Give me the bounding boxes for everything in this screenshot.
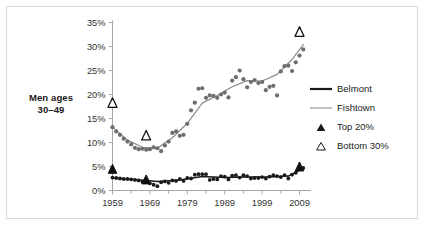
data-point [268, 85, 272, 89]
data-point [226, 95, 230, 99]
data-point [152, 145, 156, 149]
data-point [178, 177, 182, 181]
data-point [122, 137, 126, 141]
data-point [260, 80, 264, 84]
data-point [219, 174, 223, 178]
data-point [234, 173, 238, 177]
data-point [282, 64, 286, 68]
series-belmont [111, 166, 306, 188]
data-point [241, 77, 245, 81]
data-point [275, 93, 279, 97]
data-point [294, 60, 298, 64]
y-tick-label: 10% [87, 138, 106, 148]
data-point [253, 176, 257, 180]
legend-item-fishtown: Fishtown [308, 98, 420, 117]
x-tick-label: 2009 [289, 198, 310, 208]
x-tick-label: 1959 [102, 198, 123, 208]
data-point [174, 129, 178, 133]
data-point [211, 94, 215, 98]
trend-line [113, 45, 304, 149]
y-tick-label: 15% [87, 114, 106, 124]
data-point [230, 78, 234, 82]
x-tick-label: 1999 [252, 198, 273, 208]
open-triangle-icon [308, 140, 334, 152]
data-point [253, 78, 257, 82]
annotation-open-triangle [108, 98, 117, 108]
data-point [133, 178, 137, 182]
data-point [148, 147, 152, 151]
data-point [290, 69, 294, 73]
data-point [230, 174, 234, 178]
filled-triangle-icon [308, 121, 334, 133]
data-point [301, 47, 305, 51]
thin-gray-line-icon [308, 103, 334, 113]
data-point [238, 68, 242, 72]
data-point [234, 75, 238, 79]
data-point [137, 147, 141, 151]
data-point [126, 177, 130, 181]
legend-item-bottom-30: Bottom 30% [308, 136, 420, 155]
legend-label-belmont: Belmont [334, 83, 372, 94]
data-point [178, 134, 182, 138]
data-point [268, 175, 272, 179]
data-point [249, 80, 253, 84]
data-point [279, 69, 283, 73]
data-point [182, 179, 186, 183]
data-point [208, 93, 212, 97]
data-point [227, 178, 231, 182]
data-point [129, 142, 133, 146]
data-point [189, 108, 193, 112]
data-point [200, 172, 204, 176]
chart-legend: Belmont Fishtown Top 20% Bottom 30% [308, 79, 420, 155]
data-point [271, 84, 275, 88]
data-point [279, 175, 283, 179]
data-point [167, 181, 171, 185]
axis-side-label: Men ages 30–49 [14, 92, 88, 116]
data-point [256, 81, 260, 85]
data-point [242, 173, 246, 177]
data-point [219, 92, 223, 96]
data-point [204, 172, 208, 176]
data-point [163, 143, 167, 147]
data-point [114, 176, 118, 180]
data-point [245, 174, 249, 178]
data-point [193, 101, 197, 105]
data-point [238, 176, 242, 180]
side-label-line-1: Men ages [14, 92, 88, 104]
data-point [256, 176, 260, 180]
x-axis-ticks: 195919691979198919992009 [102, 191, 310, 209]
x-tick-label: 1979 [177, 198, 198, 208]
data-point [223, 90, 227, 94]
annotation-filled-triangle [142, 175, 151, 184]
data-point [275, 174, 279, 178]
y-tick-label: 0% [92, 186, 105, 196]
y-tick-label: 30% [87, 42, 106, 52]
data-point [264, 177, 268, 181]
data-point [223, 175, 227, 179]
data-point [204, 96, 208, 100]
data-point [174, 179, 178, 183]
data-point [297, 54, 301, 58]
data-point [185, 122, 189, 126]
data-point [137, 179, 141, 183]
data-point [193, 173, 197, 177]
data-point [185, 176, 189, 180]
data-point [114, 129, 118, 133]
data-point [163, 179, 167, 183]
data-point [144, 148, 148, 152]
data-point [152, 183, 156, 187]
data-point [208, 178, 212, 182]
data-point [129, 178, 133, 182]
legend-item-top-20: Top 20% [308, 117, 420, 136]
y-tick-label: 35% [87, 18, 106, 28]
data-point [167, 139, 171, 143]
data-point [215, 178, 219, 182]
data-point [271, 173, 275, 177]
chart-axes [113, 21, 312, 191]
legend-label-bottom-30: Bottom 30% [334, 140, 389, 151]
side-label-line-2: 30–49 [14, 104, 88, 116]
annotation-open-triangle [142, 130, 151, 140]
legend-item-belmont: Belmont [308, 79, 420, 98]
data-point [155, 184, 159, 188]
legend-label-top-20: Top 20% [334, 121, 374, 132]
